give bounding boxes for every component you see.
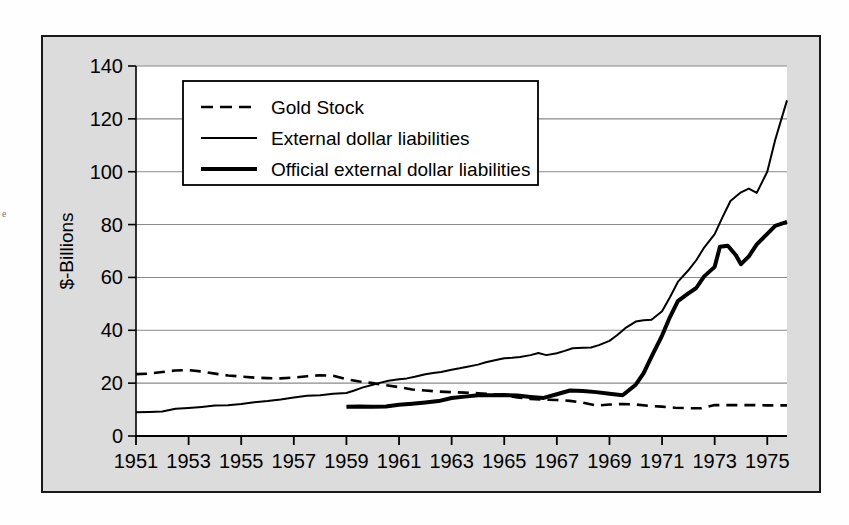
x-tick-label: 1959 — [324, 450, 369, 472]
y-axis-title: $-Billions — [56, 212, 77, 289]
y-tick-label: 100 — [90, 161, 123, 183]
x-tick-label: 1951 — [114, 450, 159, 472]
y-tick-label: 40 — [101, 319, 123, 341]
y-tick-label: 140 — [90, 55, 123, 77]
page-margin-ghost-text: e — [2, 208, 6, 219]
x-tick-label: 1963 — [429, 450, 474, 472]
y-tick-label: 120 — [90, 108, 123, 130]
page-canvas: e regional and monetaryfinancial flows t… — [0, 0, 849, 525]
x-tick-label: 1961 — [377, 450, 422, 472]
y-tick-label: 20 — [101, 372, 123, 394]
x-tick-label: 1955 — [219, 450, 264, 472]
legend-label-2: Official external dollar liabilities — [271, 159, 530, 180]
x-tick-label: 1953 — [166, 450, 211, 472]
x-tick-label: 1971 — [640, 450, 685, 472]
y-tick-label: 0 — [112, 425, 123, 447]
y-tick-label: 60 — [101, 266, 123, 288]
y-tick-label: 80 — [101, 214, 123, 236]
x-tick-label: 1965 — [482, 450, 527, 472]
x-tick-label: 1973 — [692, 450, 737, 472]
x-tick-label: 1969 — [587, 450, 632, 472]
x-tick-label: 1957 — [272, 450, 317, 472]
chart-plot: 0204060801001201401951195319551957195919… — [43, 37, 819, 491]
x-tick-label: 1967 — [535, 450, 580, 472]
figure-frame: 0204060801001201401951195319551957195919… — [41, 35, 821, 493]
x-tick-label: 1975 — [745, 450, 790, 472]
legend-label-1: External dollar liabilities — [271, 128, 470, 149]
legend-label-0: Gold Stock — [271, 97, 364, 118]
